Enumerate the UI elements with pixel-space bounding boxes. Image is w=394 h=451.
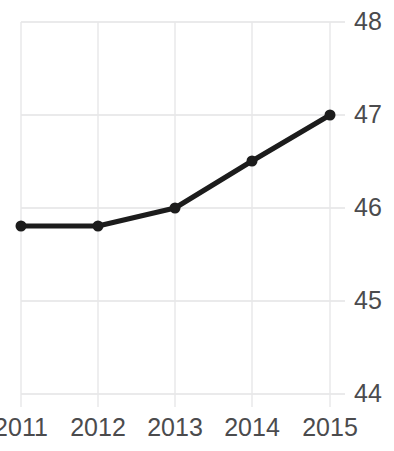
y-tick-label-47: 47	[354, 102, 394, 127]
data-point-2015[interactable]	[325, 110, 336, 121]
y-tick-label-44: 44	[354, 381, 394, 406]
data-point-2012[interactable]	[93, 221, 104, 232]
x-tick-label-2013: 2013	[140, 415, 210, 440]
chart-plot-area	[0, 0, 394, 451]
y-tick-label-48: 48	[354, 9, 394, 34]
line-chart: 48 47 46 45 44 2011 2012 2013 2014 2015	[0, 0, 394, 451]
data-point-2011[interactable]	[16, 221, 27, 232]
x-tick-label-2012: 2012	[63, 415, 133, 440]
horizontal-gridlines	[21, 22, 345, 394]
y-tick-label-46: 46	[354, 195, 394, 220]
data-point-2013[interactable]	[170, 203, 181, 214]
x-tick-label-2014: 2014	[217, 415, 287, 440]
x-tick-label-2011: 2011	[0, 415, 56, 440]
data-point-2014[interactable]	[247, 156, 258, 167]
x-tick-label-2015: 2015	[295, 415, 365, 440]
y-tick-label-45: 45	[354, 288, 394, 313]
vertical-gridlines	[21, 22, 330, 407]
